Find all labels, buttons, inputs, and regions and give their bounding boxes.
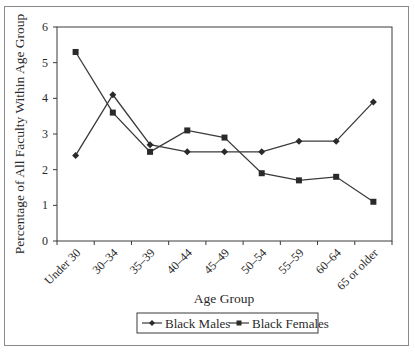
y-tick-label: 5 [42, 56, 48, 70]
diamond-marker [184, 148, 191, 155]
square-marker [222, 135, 228, 141]
legend: Black Males Black Females [137, 313, 329, 333]
plot-area [57, 27, 392, 241]
y-tick-label: 4 [42, 91, 48, 105]
x-tick-label: 35–39 [127, 246, 158, 277]
y-tick-label: 6 [42, 20, 48, 34]
square-marker [110, 110, 116, 116]
y-tick-label: 0 [42, 234, 48, 248]
series-layer [72, 49, 377, 205]
square-marker [370, 199, 376, 205]
x-tick-label: 55–59 [275, 246, 306, 277]
y-tick-label: 3 [42, 127, 48, 141]
square-icon [237, 321, 242, 326]
y-axis-title: Percentage of All Faculty Within Age Gro… [12, 13, 27, 254]
x-axis-title: Age Group [194, 291, 255, 306]
legend-label-black-females: Black Females [252, 316, 329, 331]
x-tick-label: 50–54 [238, 246, 269, 277]
x-tick-label: 40–44 [164, 246, 195, 277]
y-tick-label: 1 [42, 198, 48, 212]
diamond-marker [221, 148, 228, 155]
diamond-marker [72, 152, 79, 159]
x-axis: Under 3030–3435–3940–4445–4950–5455–5960… [42, 241, 392, 293]
x-tick-label: Under 30 [42, 246, 84, 288]
series-black-males [72, 91, 377, 159]
y-axis: 0123456 [42, 20, 57, 248]
series-line [76, 52, 374, 202]
square-marker [296, 177, 302, 183]
square-marker [147, 149, 153, 155]
square-marker [259, 170, 265, 176]
square-marker [184, 127, 190, 133]
x-tick-label: 60–64 [313, 246, 344, 277]
series-black-females [73, 49, 377, 205]
series-line [76, 95, 374, 156]
y-tick-label: 2 [42, 163, 48, 177]
square-marker [73, 49, 79, 55]
line-chart: 0123456 Under 3030–3435–3940–4445–4950–5… [0, 0, 415, 354]
legend-label-black-males: Black Males [165, 316, 230, 331]
x-tick-label: 45–49 [201, 246, 232, 277]
diamond-marker [295, 138, 302, 145]
x-tick-label: 30–34 [89, 246, 120, 277]
square-marker [333, 174, 339, 180]
diamond-marker [258, 148, 265, 155]
